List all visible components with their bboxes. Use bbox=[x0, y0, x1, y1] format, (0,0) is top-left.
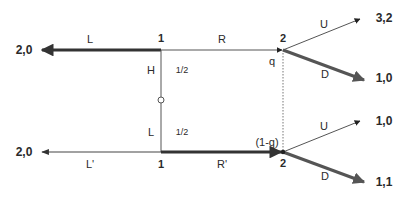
belief-bottom-1-minus-q: (1-q) bbox=[255, 137, 278, 148]
player-label-bottom-2: 2 bbox=[280, 158, 286, 169]
action-top-R: R bbox=[218, 34, 226, 45]
game-tree-diagram: 2,0 L 1 R 2 q U D 3,2 1,0 H 1/2 L 1/2 2,… bbox=[0, 0, 408, 199]
action-bottom-Rprime: R' bbox=[217, 159, 227, 170]
payoff-bottom-left: 2,0 bbox=[16, 146, 33, 158]
game-tree-edges bbox=[0, 0, 408, 199]
nature-prob-L: 1/2 bbox=[176, 128, 189, 137]
payoff-top-left: 2,0 bbox=[16, 44, 33, 56]
action-bottom-U: U bbox=[320, 121, 328, 132]
nature-label-H: H bbox=[147, 65, 155, 76]
action-top-U: U bbox=[320, 19, 328, 30]
payoff-bottom-U: 1,0 bbox=[376, 115, 393, 127]
player-label-top-1: 1 bbox=[158, 33, 164, 44]
decision-node-bottom-2 bbox=[281, 150, 286, 155]
belief-top-q: q bbox=[269, 56, 275, 67]
nature-prob-H: 1/2 bbox=[176, 66, 189, 75]
payoff-bottom-D: 1,1 bbox=[376, 176, 393, 188]
action-bottom-Lprime: L' bbox=[86, 159, 94, 170]
nature-label-L: L bbox=[148, 127, 154, 138]
action-bottom-D: D bbox=[321, 171, 329, 182]
action-top-D: D bbox=[321, 69, 329, 80]
chance-node bbox=[158, 97, 164, 103]
player-label-bottom-1: 1 bbox=[158, 159, 164, 170]
payoff-top-D: 1,0 bbox=[376, 72, 393, 84]
payoff-top-U: 3,2 bbox=[376, 12, 393, 24]
player-label-top-2: 2 bbox=[280, 33, 286, 44]
action-top-L: L bbox=[87, 34, 93, 45]
